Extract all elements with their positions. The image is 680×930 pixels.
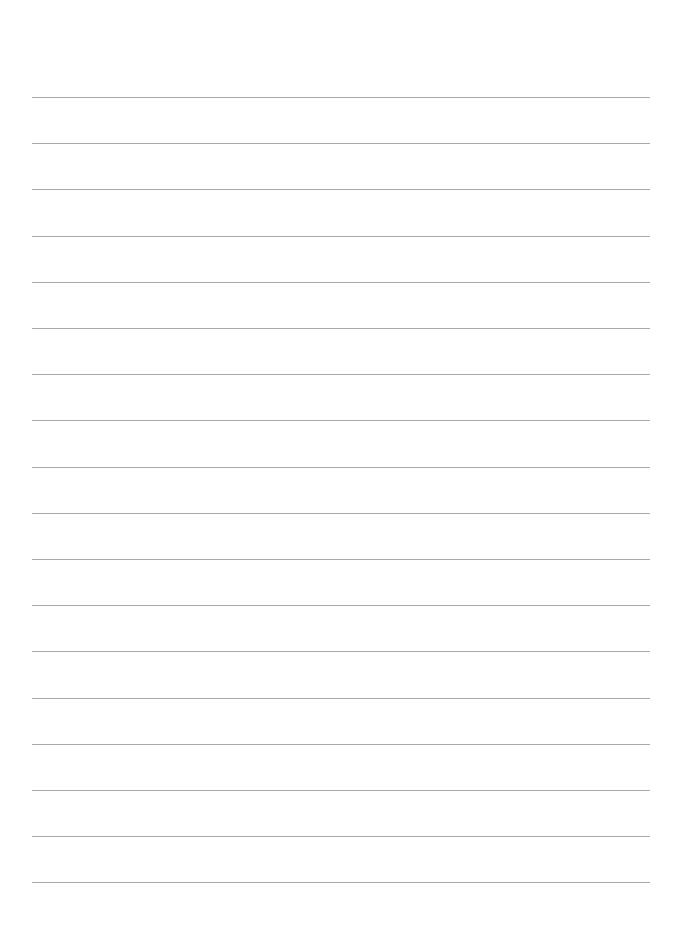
ruled-line (32, 374, 650, 375)
ruled-line (32, 513, 650, 514)
ruled-line (32, 328, 650, 329)
ruled-line (32, 467, 650, 468)
ruled-line (32, 189, 650, 190)
ruled-line (32, 836, 650, 837)
ruled-line (32, 420, 650, 421)
ruled-line (32, 698, 650, 699)
ruled-line (32, 559, 650, 560)
ruled-line (32, 882, 650, 883)
ruled-line (32, 790, 650, 791)
ruled-line (32, 651, 650, 652)
ruled-line (32, 97, 650, 98)
lined-paper-page (0, 0, 680, 930)
ruled-line (32, 282, 650, 283)
ruled-line (32, 605, 650, 606)
ruled-line (32, 744, 650, 745)
ruled-line (32, 236, 650, 237)
ruled-line (32, 143, 650, 144)
